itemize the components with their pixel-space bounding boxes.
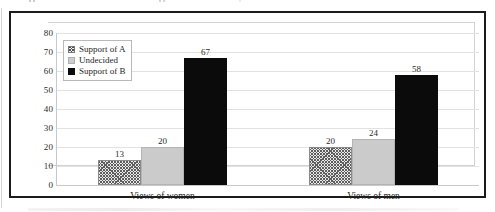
gridline-0 bbox=[57, 185, 479, 186]
y-tick-50: 50 bbox=[13, 86, 53, 95]
legend-swatch-undecided bbox=[68, 57, 75, 64]
legend-swatch-support-of-b bbox=[68, 68, 75, 75]
scan-artifact-left-margin bbox=[1, 8, 2, 208]
legend-item-support-of-b: Support of B bbox=[68, 66, 126, 77]
bar-support-of-b-women[interactable]: 67 bbox=[184, 58, 227, 185]
bar-value-label: 58 bbox=[412, 64, 421, 74]
bar-support-of-a-men[interactable]: 20 bbox=[309, 147, 352, 185]
y-tick-40: 40 bbox=[13, 105, 53, 114]
y-axis-tick-labels: 80 70 60 50 40 30 20 10 0 bbox=[11, 33, 53, 185]
bar-value-label: 13 bbox=[115, 149, 124, 159]
bar-value-label: 20 bbox=[158, 136, 167, 146]
legend-swatch-support-of-a bbox=[68, 46, 75, 53]
chart-legend: Support of A Undecided Support of B bbox=[63, 40, 132, 81]
bar-undecided-women[interactable]: 20 bbox=[141, 147, 184, 185]
scan-artifact-bottom bbox=[28, 208, 458, 211]
legend-label-support-of-a: Support of A bbox=[79, 44, 126, 55]
y-tick-70: 70 bbox=[13, 48, 53, 57]
category-label-men: Views of men bbox=[347, 190, 400, 202]
category-label-women: Views of women bbox=[130, 190, 194, 202]
x-axis-category-labels: Views of women Views of men bbox=[57, 190, 479, 204]
bar-undecided-men[interactable]: 24 bbox=[352, 139, 395, 185]
legend-item-support-of-a: Support of A bbox=[68, 44, 126, 55]
chart-figure-frame: 80 70 60 50 40 30 20 10 0 132067202458 V… bbox=[9, 11, 486, 198]
bar-support-of-b-men[interactable]: 58 bbox=[395, 75, 438, 185]
y-tick-20: 20 bbox=[13, 143, 53, 152]
y-tick-80: 80 bbox=[13, 29, 53, 38]
legend-label-support-of-b: Support of B bbox=[79, 66, 126, 77]
y-tick-30: 30 bbox=[13, 124, 53, 133]
y-tick-0: 0 bbox=[13, 181, 53, 190]
legend-label-undecided: Undecided bbox=[79, 55, 118, 66]
bar-group-men: 202458 bbox=[309, 33, 438, 185]
bar-value-label: 20 bbox=[326, 136, 335, 146]
scan-artifact-top bbox=[0, 0, 495, 7]
y-tick-60: 60 bbox=[13, 67, 53, 76]
bar-value-label: 67 bbox=[201, 47, 210, 57]
bar-support-of-a-women[interactable]: 13 bbox=[98, 160, 141, 185]
y-tick-10: 10 bbox=[13, 162, 53, 171]
legend-item-undecided: Undecided bbox=[68, 55, 126, 66]
bar-value-label: 24 bbox=[369, 128, 378, 138]
